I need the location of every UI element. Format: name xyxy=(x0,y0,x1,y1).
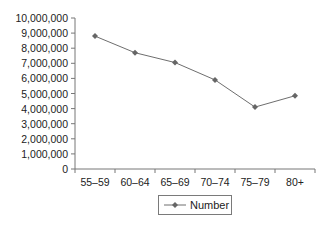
data-point-diamond-icon xyxy=(252,104,258,110)
y-tick-label: 3,000,000 xyxy=(21,118,68,130)
x-tick-label: 55–59 xyxy=(80,176,109,188)
legend: Number xyxy=(158,195,232,215)
y-tick-label: 9,000,000 xyxy=(21,27,68,39)
y-tick-label: 6,000,000 xyxy=(21,72,68,84)
x-tick-label: 75–79 xyxy=(240,176,269,188)
y-axis: 01,000,0002,000,0003,000,0004,000,0005,0… xyxy=(15,12,75,175)
data-point-diamond-icon xyxy=(172,60,178,66)
y-tick-label: 1,000,000 xyxy=(21,148,68,160)
data-point-diamond-icon xyxy=(132,50,138,56)
series-number xyxy=(92,33,298,110)
x-tick-label: 80+ xyxy=(286,176,304,188)
y-tick-label: 5,000,000 xyxy=(21,88,68,100)
y-tick-label: 2,000,000 xyxy=(21,133,68,145)
y-tick-label: 7,000,000 xyxy=(21,57,68,69)
x-tick-label: 60–64 xyxy=(120,176,149,188)
legend-line-diamond-icon xyxy=(162,195,188,215)
data-point-diamond-icon xyxy=(212,77,218,83)
y-tick-label: 4,000,000 xyxy=(21,103,68,115)
x-axis: 55–5960–6465–6970–7475–7980+ xyxy=(75,169,315,188)
x-tick-label: 65–69 xyxy=(160,176,189,188)
legend-label: Number xyxy=(190,199,229,211)
data-point-diamond-icon xyxy=(92,33,98,39)
y-tick-label: 10,000,000 xyxy=(15,12,68,24)
y-tick-label: 0 xyxy=(62,163,68,175)
x-tick-label: 70–74 xyxy=(200,176,229,188)
y-tick-label: 8,000,000 xyxy=(21,42,68,54)
data-point-diamond-icon xyxy=(292,93,298,99)
